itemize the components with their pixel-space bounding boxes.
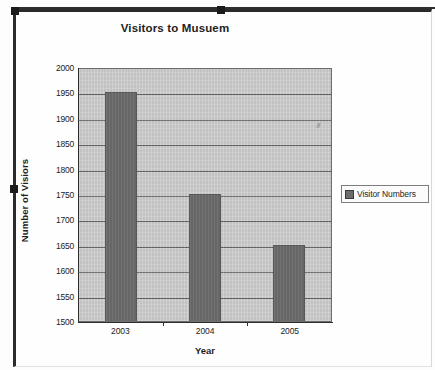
chart-screenshot: Visitors to Musuem Number of Visiors 200… (0, 0, 435, 370)
x-tick-label-2003: 2003 (78, 326, 163, 336)
x-tick-label-2005: 2005 (247, 326, 332, 336)
selection-handle-top-center[interactable] (217, 6, 225, 14)
legend-label-visitor-numbers: Visitor Numbers (357, 189, 416, 199)
bar-slot (163, 69, 247, 321)
y-axis-title: Number of Visiors (19, 141, 30, 261)
selection-handle-left-middle[interactable] (10, 185, 18, 193)
y-axis-line (78, 68, 79, 323)
y-tick-label-1950: 1950 (34, 88, 74, 98)
x-tick-mark-2 (247, 322, 248, 326)
y-tick-label-2000: 2000 (34, 63, 74, 73)
y-axis-tick-labels: 2000195019001850180017501700165016001550… (30, 68, 74, 322)
bar-2003[interactable] (105, 92, 137, 321)
y-tick-label-1500: 1500 (34, 317, 74, 327)
bar-series (79, 69, 331, 321)
y-tick-label-1850: 1850 (34, 139, 74, 149)
y-tick-label-1550: 1550 (34, 292, 74, 302)
chart-title: Visitors to Musuem (0, 22, 350, 34)
legend-swatch-visitor-numbers (345, 190, 354, 199)
y-tick-label-1650: 1650 (34, 241, 74, 251)
bar-slot (247, 69, 331, 321)
plot-area (78, 68, 332, 322)
bar-slot (79, 69, 163, 321)
y-tick-label-1700: 1700 (34, 215, 74, 225)
bar-2004[interactable] (189, 194, 221, 321)
x-axis-tick-labels: 200320042005 (78, 326, 332, 336)
x-axis-title: Year (78, 345, 332, 356)
legend[interactable]: Visitor Numbers (341, 185, 429, 203)
selection-handle-top-left[interactable] (11, 7, 19, 15)
x-tick-label-2004: 2004 (163, 326, 248, 336)
y-tick-label-1750: 1750 (34, 190, 74, 200)
y-tick-label-1800: 1800 (34, 165, 74, 175)
bar-2005[interactable] (273, 245, 305, 321)
x-axis-line (78, 322, 333, 323)
y-tick-label-1900: 1900 (34, 114, 74, 124)
x-tick-mark-1 (163, 322, 164, 326)
y-tick-label-1600: 1600 (34, 266, 74, 276)
